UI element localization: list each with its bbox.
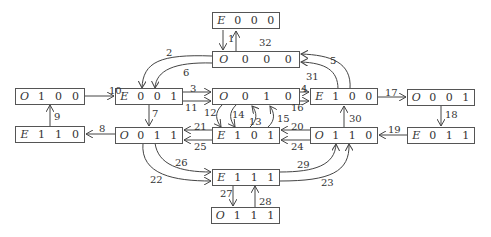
edge-label-9: 9 xyxy=(54,112,60,122)
edge-label-10: 10 xyxy=(109,86,122,96)
edge-label-11: 11 xyxy=(185,103,198,113)
edge-label-18: 18 xyxy=(445,110,458,120)
node-E110: E110 xyxy=(15,126,85,143)
edge-label-20: 20 xyxy=(291,122,304,132)
node-O000: O000 xyxy=(212,51,300,68)
edge-label-4: 4 xyxy=(301,84,307,94)
edge-label-2: 2 xyxy=(166,48,172,58)
edge-label-16: 16 xyxy=(291,103,304,113)
node-O010: O010 xyxy=(212,88,300,105)
edge-label-1: 1 xyxy=(228,34,234,44)
edge-label-17: 17 xyxy=(385,88,398,98)
edge-label-14: 14 xyxy=(232,110,245,120)
node-E001: E001 xyxy=(115,88,183,105)
state-transition-diagram: E000 O000 O100 E001 O010 E100 O001 E110 … xyxy=(0,0,491,237)
edge-label-13: 13 xyxy=(249,117,262,127)
edge-label-22: 22 xyxy=(150,175,163,185)
edge-label-8: 8 xyxy=(99,124,105,134)
node-O001: O001 xyxy=(407,89,475,106)
node-O100: O100 xyxy=(15,88,85,105)
node-E100: E100 xyxy=(310,88,378,105)
edge-label-21: 21 xyxy=(194,122,207,132)
edge-label-31: 31 xyxy=(306,72,319,82)
edge-12 xyxy=(217,105,222,127)
edge-label-32: 32 xyxy=(259,38,272,48)
node-E111: E111 xyxy=(212,169,280,186)
edges-layer xyxy=(0,0,491,237)
node-O111: O111 xyxy=(211,207,280,224)
edge-label-27: 27 xyxy=(220,189,233,199)
edge-2 xyxy=(142,56,212,88)
edge-label-3: 3 xyxy=(190,84,196,94)
node-O011: O011 xyxy=(115,127,183,144)
node-E000: E000 xyxy=(212,12,280,29)
edge-label-12: 12 xyxy=(204,108,217,118)
edge-label-25: 25 xyxy=(194,142,207,152)
node-E101: E101 xyxy=(212,127,280,144)
edge-label-30: 30 xyxy=(349,114,362,124)
edge-label-23: 23 xyxy=(321,178,334,188)
edge-label-28: 28 xyxy=(259,197,272,207)
edge-label-5: 5 xyxy=(330,56,336,66)
node-E011: E011 xyxy=(407,127,475,144)
edge-label-7: 7 xyxy=(152,109,158,119)
edge-label-19: 19 xyxy=(388,125,401,135)
edge-label-24: 24 xyxy=(291,142,304,152)
edge-label-15: 15 xyxy=(277,114,290,124)
edge-label-29: 29 xyxy=(297,160,310,170)
edge-15 xyxy=(268,106,274,127)
edge-label-26: 26 xyxy=(175,158,188,168)
node-O110: O110 xyxy=(310,127,378,144)
edge-label-6: 6 xyxy=(183,68,189,78)
